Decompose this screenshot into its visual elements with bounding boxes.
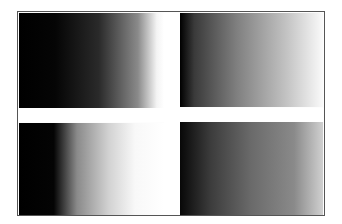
gradient-panel-top-left [19, 13, 164, 108]
image-frame [17, 11, 325, 216]
gradient-panel-bottom-right [179, 122, 323, 215]
gradient-panel-bottom-left [19, 123, 164, 215]
gradient-panel-top-right [180, 13, 323, 107]
horizontal-divider [18, 108, 324, 122]
